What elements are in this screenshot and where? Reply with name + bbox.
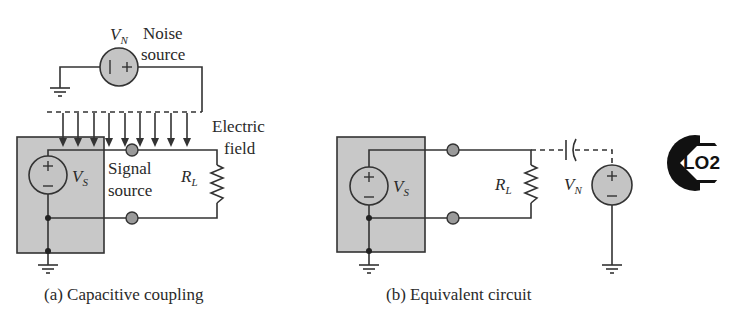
signal-source-label-b: VS — [393, 178, 409, 201]
load-resistor-b — [525, 165, 537, 203]
terminal-top-a — [126, 144, 138, 156]
signal-label-line2: source — [108, 182, 152, 200]
noise-source-a — [100, 48, 138, 86]
caption-a: (a) Capacitive coupling — [44, 285, 204, 305]
noise-source-label-a: VN — [110, 26, 128, 49]
terminal-top-b — [447, 144, 459, 156]
noise-label-line1: Noise — [143, 25, 183, 43]
lo2-badge-text: LO2 — [683, 152, 720, 174]
signal-source-label-a: VS — [72, 168, 88, 191]
terminal-bottom-a — [126, 212, 138, 224]
signal-source-shield-a — [17, 137, 104, 253]
electric-field-arrows — [63, 113, 187, 140]
field-label-line1: Electric — [212, 118, 265, 136]
signal-label-line1: Signal — [108, 160, 151, 178]
load-label-b: RL — [495, 176, 512, 199]
load-resistor-a — [211, 165, 223, 203]
terminal-bottom-b — [447, 212, 459, 224]
load-label-a: RL — [181, 168, 198, 191]
noise-source-label-b: VN — [564, 176, 582, 199]
field-label-line2: field — [224, 140, 255, 158]
caption-b: (b) Equivalent circuit — [386, 285, 531, 305]
noise-label-line2: source — [141, 46, 185, 64]
